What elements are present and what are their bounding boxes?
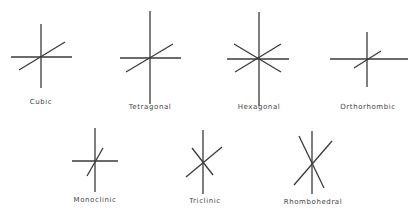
label-hexagonal: Hexagonal xyxy=(238,103,281,111)
label-cubic: Cubic xyxy=(30,98,53,106)
axes-triclinic xyxy=(186,130,222,194)
axes-cubic xyxy=(11,24,72,88)
label-triclinic: Triclinic xyxy=(189,197,220,205)
axis-line xyxy=(186,147,222,177)
axes-hexagonal xyxy=(227,12,289,106)
axis-line xyxy=(294,141,332,185)
label-rhombohedral: Rhombohedral xyxy=(284,198,343,206)
axes-tetragonal xyxy=(120,11,181,104)
label-orthorhombic: Orthorhombic xyxy=(340,103,396,111)
axes-monoclinic xyxy=(72,128,118,192)
label-tetragonal: Tetragonal xyxy=(129,103,172,111)
label-monoclinic: Monoclinic xyxy=(73,196,116,204)
axis-line xyxy=(19,42,65,70)
axes-rhombohedral xyxy=(294,131,332,194)
axes-orthorhombic xyxy=(330,32,408,87)
